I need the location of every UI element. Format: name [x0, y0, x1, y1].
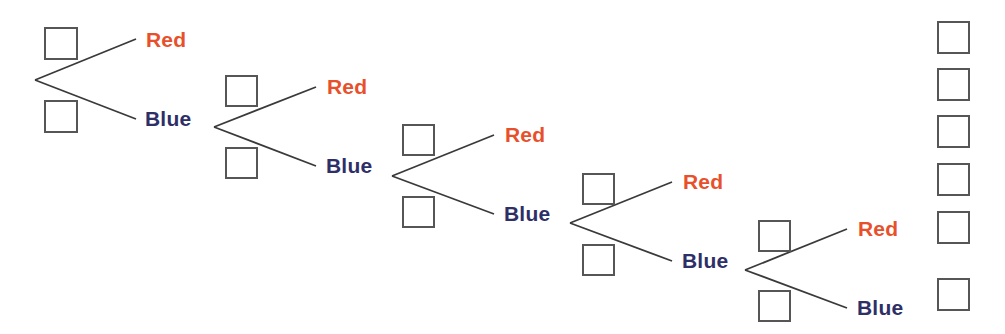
stage-1-upper-probability-box[interactable]	[44, 27, 78, 60]
outcome-box-3[interactable]	[937, 115, 970, 148]
stage-2-lower-probability-box[interactable]	[225, 147, 258, 179]
outcome-box-4[interactable]	[937, 163, 970, 196]
stage-3-branch-label-red: Red	[505, 124, 545, 145]
stage-1-branch-label-blue: Blue	[145, 108, 191, 129]
stage-5-lower-probability-box[interactable]	[758, 290, 791, 322]
stage-3-upper-probability-box[interactable]	[402, 124, 435, 156]
stage-2-branch-label-red: Red	[327, 76, 367, 97]
stage-4-branch-label-blue: Blue	[682, 250, 728, 271]
outcome-box-5[interactable]	[937, 211, 970, 244]
stage-4-branch-label-red: Red	[683, 171, 723, 192]
stage-2-branch-label-blue: Blue	[326, 155, 372, 176]
outcome-box-1[interactable]	[937, 21, 970, 54]
stage-5-branch-label-blue: Blue	[857, 297, 903, 318]
stage-4-lower-probability-box[interactable]	[582, 244, 615, 276]
tree-diagram-canvas: RedBlueRedBlueRedBlueRedBlueRedBlue	[0, 0, 1005, 334]
stage-4-upper-probability-box[interactable]	[582, 173, 615, 205]
outcome-box-6[interactable]	[937, 278, 970, 311]
stage-3-branch-label-blue: Blue	[504, 203, 550, 224]
stage-2-upper-probability-box[interactable]	[225, 75, 258, 107]
stage-1-lower-probability-box[interactable]	[44, 100, 78, 133]
stage-5-upper-probability-box[interactable]	[758, 220, 791, 252]
outcome-box-2[interactable]	[937, 68, 970, 101]
stage-1-branch-label-red: Red	[146, 29, 186, 50]
stage-5-branch-label-red: Red	[858, 218, 898, 239]
stage-3-lower-probability-box[interactable]	[402, 196, 435, 228]
